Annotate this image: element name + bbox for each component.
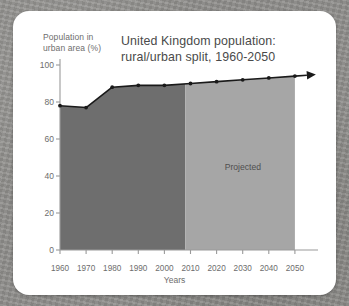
data-point-marker <box>136 83 140 87</box>
data-point-marker <box>293 74 297 78</box>
y-tick-label: 60 <box>28 134 54 144</box>
data-point-marker <box>58 104 62 108</box>
y-tick-label: 40 <box>28 171 54 181</box>
y-tick-label: 100 <box>28 60 54 70</box>
chart-title: United Kingdom population: rural/urban s… <box>121 33 331 65</box>
projected-annotation: Projected <box>225 162 261 172</box>
y-tick-label: 80 <box>28 97 54 107</box>
data-point-marker <box>189 82 193 86</box>
data-point-marker <box>241 78 245 82</box>
data-point-marker <box>215 80 219 84</box>
y-tick-label: 0 <box>28 245 54 255</box>
data-point-marker <box>84 106 88 110</box>
chart-card: Population in urban area (%) United King… <box>13 11 336 295</box>
data-point-marker <box>110 85 114 89</box>
chart-title-line1: United Kingdom population: <box>121 33 331 49</box>
y-axis-label: Population in urban area (%) <box>43 32 133 54</box>
arrowhead-icon <box>307 71 316 79</box>
x-tick-label: 2050 <box>278 264 312 273</box>
data-point-marker <box>163 83 167 87</box>
data-point-marker <box>267 76 271 80</box>
chart-title-line2: rural/urban split, 1960-2050 <box>121 49 331 65</box>
chart-plot-area: Population in urban area (%) United King… <box>13 11 336 295</box>
x-axis-label: Years <box>13 275 336 285</box>
y-axis-label-line1: Population in <box>43 32 133 43</box>
y-tick-label: 20 <box>28 208 54 218</box>
region-historical <box>60 84 185 250</box>
y-axis-label-line2: urban area (%) <box>43 43 133 54</box>
